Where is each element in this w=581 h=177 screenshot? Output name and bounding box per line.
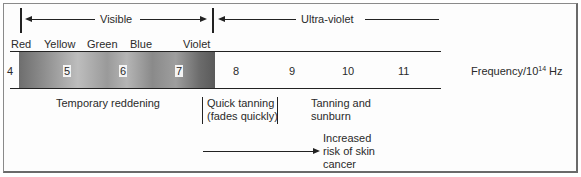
visible-spectrum-band (19, 52, 215, 88)
color-yellow: Yellow (44, 38, 75, 51)
color-green: Green (87, 38, 118, 51)
quick-tanning-right-bar (277, 97, 278, 124)
axis-label-exponent: 14 (538, 65, 546, 72)
color-blue: Blue (130, 38, 152, 51)
frequency-axis-label: Frequency/1014 Hz (471, 65, 563, 78)
visible-left-marker (20, 8, 22, 33)
tick-7: 7 (175, 65, 183, 77)
visible-right-arrowhead (200, 16, 207, 22)
color-violet: Violet (183, 38, 210, 51)
tick-11: 11 (398, 65, 409, 77)
spectrum-bottom-line (10, 88, 441, 89)
color-red: Red (11, 38, 31, 51)
quick-tanning-left-bar (202, 97, 203, 124)
effect-tanning-sunburn-line1: Tanning and (311, 97, 371, 110)
effect-temporary-reddening: Temporary reddening (56, 97, 160, 110)
effect-cancer-line3: cancer (323, 158, 356, 171)
tick-4: 4 (7, 65, 13, 77)
tick-8: 8 (233, 65, 239, 77)
axis-label-prefix: Frequency/10 (471, 65, 538, 77)
effect-quick-tanning-line2: (fades quickly) (207, 110, 278, 123)
effect-tanning-sunburn-line2: sunburn (311, 110, 351, 123)
visible-uv-boundary-marker (212, 8, 214, 33)
ultraviolet-arrow-right-line (365, 19, 439, 20)
cancer-risk-arrowhead (313, 148, 320, 154)
cancer-risk-arrow-line (203, 151, 313, 152)
visible-label: Visible (100, 13, 132, 26)
effect-quick-tanning-line1: Quick tanning (207, 97, 274, 110)
ultraviolet-label: Ultra-violet (301, 13, 354, 26)
axis-label-suffix: Hz (546, 65, 563, 77)
tick-9: 9 (289, 65, 295, 77)
effect-cancer-line2: risk of skin (323, 145, 375, 158)
tick-5: 5 (63, 65, 71, 77)
visible-arrow-right-line (140, 19, 200, 20)
visible-arrow-left-line (30, 19, 95, 20)
tick-6: 6 (119, 65, 127, 77)
effect-cancer-line1: Increased (323, 132, 371, 145)
ultraviolet-arrow-left-line (224, 19, 296, 20)
tick-10: 10 (342, 65, 354, 77)
